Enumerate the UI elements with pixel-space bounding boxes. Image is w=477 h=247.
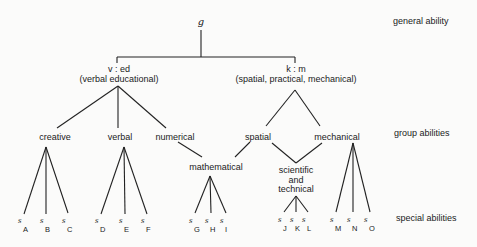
s-symbol: s — [95, 217, 99, 225]
group-scientific: scientific — [279, 165, 314, 175]
factor-ved-symbol: v : ed — [108, 64, 130, 74]
s-symbol: s — [302, 216, 306, 224]
subscript: K — [295, 224, 300, 233]
s-symbol: s — [119, 217, 123, 225]
s-symbol: s — [205, 217, 209, 225]
group-mathematical: mathematical — [189, 162, 243, 172]
root-g: g — [198, 16, 204, 27]
special-ability-E: sE — [119, 217, 133, 239]
special-ability-O: sO — [364, 216, 378, 238]
subscript: D — [100, 225, 105, 234]
subscript: F — [146, 225, 151, 234]
subscript: J — [283, 224, 287, 233]
subscript: O — [369, 224, 375, 233]
special-ability-A: sA — [18, 217, 32, 239]
s-symbol: s — [40, 217, 44, 225]
s-symbol: s — [290, 216, 294, 224]
factor-ved-description: (verbal educational) — [79, 74, 158, 84]
special-ability-G: sG — [189, 217, 203, 239]
s-symbol: s — [62, 217, 66, 225]
special-ability-H: sH — [205, 217, 219, 239]
special-ability-M: sM — [330, 216, 344, 238]
special-ability-F: sF — [141, 217, 155, 239]
subscript: B — [45, 225, 50, 234]
subscript: M — [335, 224, 341, 233]
subscript: L — [307, 224, 311, 233]
s-symbol: s — [189, 217, 193, 225]
s-symbol: s — [18, 217, 22, 225]
subscript: I — [225, 225, 227, 234]
level-label-group: group abilities — [394, 128, 450, 138]
subscript: H — [210, 225, 215, 234]
special-ability-D: sD — [95, 217, 109, 239]
tree-lines — [0, 0, 477, 247]
subscript: N — [352, 224, 357, 233]
level-label-general: general ability — [393, 16, 449, 26]
special-ability-I: sI — [220, 217, 234, 239]
group-numerical: numerical — [155, 132, 194, 142]
s-symbol: s — [364, 216, 368, 224]
group-technical: technical — [278, 184, 314, 194]
group-spatial: spatial — [245, 132, 271, 142]
factor-km-symbol: k : m — [286, 64, 306, 74]
s-symbol: s — [347, 216, 351, 224]
subscript: G — [194, 225, 200, 234]
s-symbol: s — [220, 217, 224, 225]
special-ability-N: sN — [347, 216, 361, 238]
subscript: A — [23, 225, 28, 234]
level-label-special: special abilities — [396, 213, 457, 223]
subscript: E — [124, 225, 129, 234]
special-ability-B: sB — [40, 217, 54, 239]
s-symbol: s — [141, 217, 145, 225]
group-mechanical: mechanical — [314, 132, 360, 142]
s-symbol: s — [278, 216, 282, 224]
group-verbal: verbal — [108, 132, 133, 142]
special-ability-C: sC — [62, 217, 76, 239]
group-creative: creative — [39, 132, 71, 142]
subscript: C — [67, 225, 72, 234]
factor-km-description: (spatial, practical, mechanical) — [235, 74, 356, 84]
s-symbol: s — [330, 216, 334, 224]
special-ability-L: sL — [302, 216, 316, 238]
